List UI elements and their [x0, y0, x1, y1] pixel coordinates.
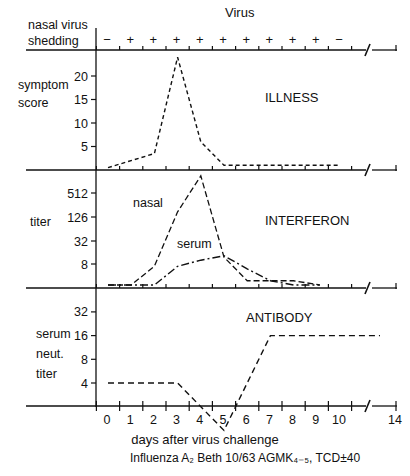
shedding-label-1: nasal virus [28, 18, 88, 32]
caption: Influenza A₂ Beth 10/63 AGMK₄₋₅, TCD±40 [130, 451, 361, 465]
shedding-label-2: shedding [28, 34, 79, 48]
shedding-row: −+++++++++− [103, 32, 343, 47]
x-tick-label: 7 [266, 413, 273, 427]
interferon-title: INTERFERON [265, 213, 350, 228]
x-tick-label: 3 [173, 413, 180, 427]
serum-label: serum [177, 237, 212, 251]
nasal-interferon-line [108, 176, 320, 285]
shedding-mark: + [289, 32, 297, 47]
antibody-ylabel-3: titer [36, 367, 57, 381]
x-tick-label: 0 [104, 413, 111, 427]
y-tick-label: 15 [74, 93, 88, 107]
y-tick-label: 512 [67, 187, 88, 201]
axis-break-marks [365, 44, 370, 412]
shedding-mark: + [196, 32, 204, 47]
x-ticks [96, 45, 396, 411]
shedding-mark: + [242, 32, 250, 47]
illness-ylabel-1: symptom [18, 78, 69, 92]
interferon-ylabel: titer [30, 215, 51, 229]
x-tick-label: 9 [312, 413, 319, 427]
illness-y-ticks: 5101520 [74, 70, 96, 155]
virus-header: Virus [225, 5, 255, 20]
illness-title: ILLNESS [265, 90, 319, 105]
shedding-mark: + [126, 32, 134, 47]
x-axis-label: days after virus challenge [131, 432, 278, 447]
y-tick-label: 126 [67, 211, 88, 225]
shedding-mark: + [173, 32, 181, 47]
serum-interferon-line [108, 256, 320, 285]
y-tick-label: 32 [74, 305, 88, 319]
shedding-mark: + [312, 32, 320, 47]
y-tick-label: 8 [81, 353, 88, 367]
antibody-ylabel-1: serum [36, 327, 71, 341]
x-tick-label: 2 [150, 413, 157, 427]
illness-ylabel-2: score [18, 96, 49, 110]
shedding-mark: + [150, 32, 158, 47]
x-tick-label: 10 [332, 413, 346, 427]
antibody-y-ticks: 481632 [74, 305, 96, 390]
y-tick-label: 32 [74, 235, 88, 249]
x-tick-label: 1 [127, 413, 134, 427]
y-tick-label: 16 [74, 329, 88, 343]
figure: Virus nasal virus shedding −+++++++++− s… [0, 0, 410, 476]
illness-line [108, 57, 340, 167]
interferon-y-ticks: 832126512 [67, 187, 96, 272]
x-tick-label: 5 [220, 413, 227, 427]
shedding-mark: + [219, 32, 227, 47]
antibody-ylabel-2: neut. [36, 347, 64, 361]
x-tick-label: 8 [289, 413, 296, 427]
y-tick-label: 5 [81, 140, 88, 154]
x-tick-label: 6 [243, 413, 250, 427]
y-tick-label: 10 [74, 117, 88, 131]
shedding-mark: + [266, 32, 274, 47]
x-tick-labels: 01234567891014 [104, 413, 402, 427]
y-tick-label: 8 [81, 258, 88, 272]
antibody-title: ANTIBODY [246, 310, 313, 325]
x-tick-label: 14 [388, 413, 402, 427]
x-tick-label: 4 [196, 413, 203, 427]
shedding-mark: − [335, 32, 343, 47]
shedding-mark: − [103, 32, 111, 47]
nasal-label: nasal [133, 196, 163, 210]
y-tick-label: 4 [81, 377, 88, 391]
y-tick-label: 20 [74, 70, 88, 84]
